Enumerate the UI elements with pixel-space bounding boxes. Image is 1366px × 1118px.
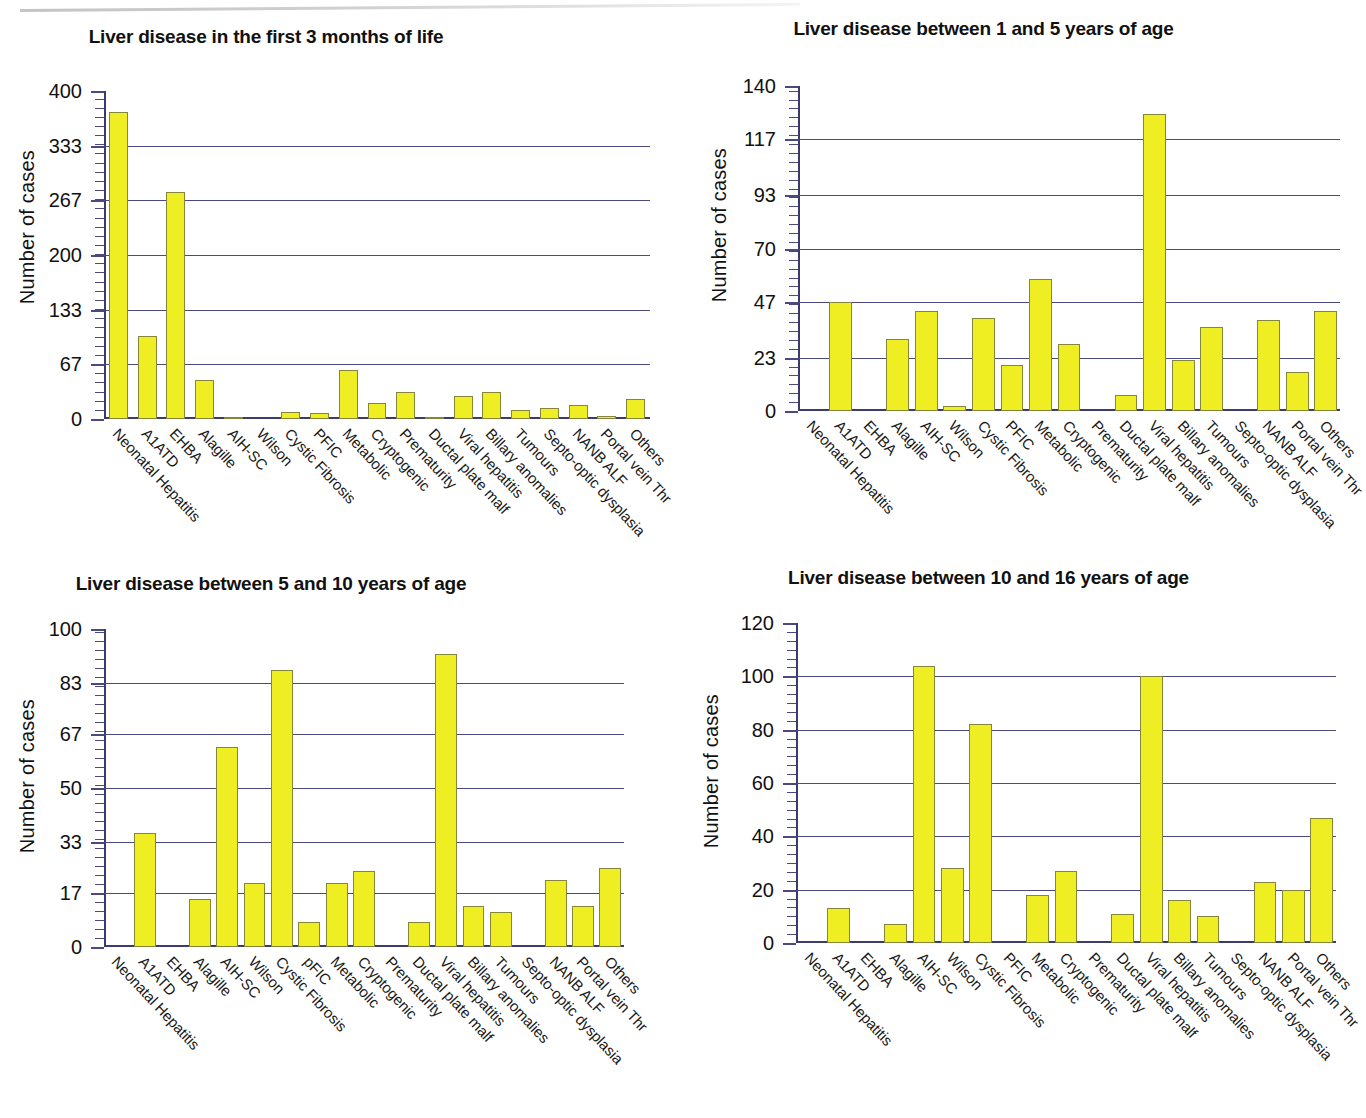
y-axis-minor-tick: [787, 872, 796, 873]
bar[interactable]: [941, 868, 964, 943]
bar[interactable]: [1172, 360, 1195, 411]
y-axis-minor-tick: [95, 731, 104, 732]
bar[interactable]: [943, 406, 966, 411]
bar[interactable]: [224, 417, 243, 419]
bar[interactable]: [1058, 344, 1081, 411]
bar[interactable]: [1111, 914, 1134, 943]
bar[interactable]: [353, 871, 375, 947]
bar[interactable]: [463, 906, 485, 947]
chart-title-1: Liver disease in the first 3 months of l…: [0, 26, 652, 48]
bar[interactable]: [195, 380, 214, 419]
y-axis-minor-tick: [787, 641, 796, 642]
bar[interactable]: [626, 399, 645, 419]
bar[interactable]: [545, 880, 567, 947]
bar[interactable]: [482, 392, 501, 419]
bar[interactable]: [435, 654, 457, 947]
gridline: [796, 730, 1336, 731]
bar[interactable]: [1197, 916, 1220, 943]
bar[interactable]: [1200, 327, 1223, 411]
y-tick-label: 267: [12, 189, 82, 212]
y-axis-major-tick: [91, 310, 104, 312]
bar[interactable]: [490, 912, 512, 947]
bar[interactable]: [271, 670, 293, 947]
bar[interactable]: [1282, 890, 1305, 943]
bar[interactable]: [913, 666, 936, 943]
bar[interactable]: [138, 336, 157, 419]
plot-area-3: 01733506783100: [104, 629, 624, 947]
y-axis-minor-tick: [95, 218, 104, 219]
bar[interactable]: [1143, 114, 1166, 411]
bar[interactable]: [425, 417, 444, 419]
bar[interactable]: [884, 924, 907, 943]
y-axis-major-tick: [783, 836, 796, 838]
bar[interactable]: [396, 392, 415, 419]
gridline: [104, 146, 650, 147]
bar[interactable]: [281, 412, 300, 419]
y-axis-minor-tick: [95, 839, 104, 840]
y-axis-minor-tick: [95, 938, 104, 939]
y-axis-minor-tick: [789, 251, 798, 252]
bar[interactable]: [216, 747, 238, 947]
bar[interactable]: [915, 311, 938, 411]
y-axis-major-tick: [91, 947, 104, 949]
plot-area-2: 023477093117140: [798, 86, 1340, 411]
y-tick-label: 117: [706, 128, 776, 151]
bar[interactable]: [597, 416, 616, 419]
bar[interactable]: [166, 192, 185, 419]
y-axis-minor-tick: [787, 907, 796, 908]
bar[interactable]: [1168, 900, 1191, 943]
y-tick-label: 23: [706, 346, 776, 369]
y-axis-minor-tick: [95, 355, 104, 356]
bar[interactable]: [1001, 365, 1024, 411]
bar[interactable]: [1314, 311, 1337, 411]
bar[interactable]: [109, 112, 128, 419]
bar[interactable]: [1254, 882, 1277, 943]
bar[interactable]: [511, 410, 530, 419]
y-axis-minor-tick: [789, 331, 798, 332]
bar[interactable]: [310, 413, 329, 419]
gridline: [796, 783, 1336, 784]
bar[interactable]: [540, 408, 559, 419]
bar[interactable]: [134, 833, 156, 947]
bar[interactable]: [1140, 676, 1163, 943]
bar[interactable]: [1286, 372, 1309, 411]
y-tick-label: 100: [704, 665, 774, 688]
y-tick-label: 47: [706, 290, 776, 313]
y-tick-label: 0: [12, 408, 82, 431]
bar[interactable]: [827, 908, 850, 943]
bar[interactable]: [339, 370, 358, 419]
y-tick-label: 0: [706, 400, 776, 423]
bar[interactable]: [1115, 395, 1138, 411]
bar[interactable]: [599, 868, 621, 948]
bar[interactable]: [569, 405, 588, 419]
y-axis-minor-tick: [95, 830, 104, 831]
y-axis-minor-tick: [95, 135, 104, 136]
bar[interactable]: [1026, 895, 1049, 943]
bar[interactable]: [1029, 279, 1052, 411]
bar[interactable]: [244, 883, 266, 947]
bar[interactable]: [368, 403, 387, 419]
bar[interactable]: [886, 339, 909, 411]
y-axis-minor-tick: [789, 304, 798, 305]
bar[interactable]: [1310, 818, 1333, 943]
y-axis-minor-tick: [95, 99, 104, 100]
bar[interactable]: [454, 396, 473, 419]
bar[interactable]: [408, 922, 430, 947]
y-tick-label: 80: [704, 718, 774, 741]
bar[interactable]: [829, 302, 852, 411]
y-axis-major-tick: [783, 676, 796, 678]
y-tick-label: 67: [12, 353, 82, 376]
bar[interactable]: [326, 883, 348, 947]
y-axis-minor-tick: [95, 695, 104, 696]
bar[interactable]: [572, 906, 594, 947]
bar[interactable]: [1257, 320, 1280, 411]
y-axis-major-tick: [91, 734, 104, 736]
bar[interactable]: [189, 899, 211, 947]
y-axis-minor-tick: [95, 812, 104, 813]
bar[interactable]: [972, 318, 995, 411]
bar[interactable]: [969, 724, 992, 943]
bar[interactable]: [1055, 871, 1078, 943]
y-axis-minor-tick: [787, 792, 796, 793]
y-axis-minor-tick: [789, 402, 798, 403]
bar[interactable]: [298, 922, 320, 947]
